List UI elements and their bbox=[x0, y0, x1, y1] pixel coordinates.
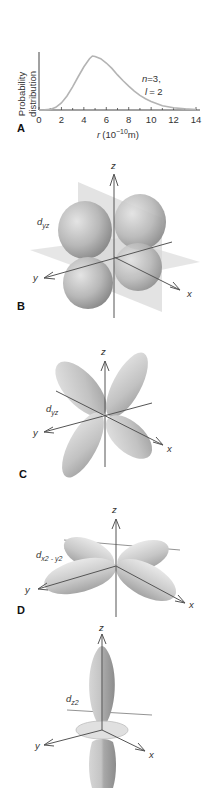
panel-label-c: C bbox=[19, 468, 27, 480]
svg-text:Probability: Probability bbox=[16, 72, 27, 117]
panel-label-b: B bbox=[17, 300, 25, 312]
panel-b-dyz-with-planes: z y x dyz B bbox=[0, 150, 212, 320]
y-axis-label: y bbox=[32, 427, 39, 438]
x-tick-label: 10 bbox=[146, 114, 157, 125]
lobe-lower-left bbox=[63, 257, 113, 309]
x-axis-label: r(10−10m) bbox=[97, 128, 139, 140]
svg-text:n=3,: n=3, bbox=[142, 73, 161, 84]
probability-curve bbox=[39, 56, 196, 110]
x-axis-label: x bbox=[166, 443, 173, 454]
z-axis-label: z bbox=[110, 160, 116, 171]
orbital-label-dx2y2: dx2 - y2 bbox=[36, 549, 62, 563]
svg-text:distribution: distribution bbox=[27, 71, 38, 117]
lobe-lower-z bbox=[89, 739, 116, 788]
lobe-lower-right bbox=[98, 407, 160, 467]
panel-c-dyz-lobes: z y x dyz C bbox=[0, 335, 212, 490]
lobe-lower-left bbox=[54, 407, 113, 484]
panel-d-dx2y2-lobes: z y x dx2 - y2 D bbox=[0, 495, 212, 620]
panel-label-d: D bbox=[17, 604, 25, 616]
x-axis-label: x bbox=[186, 288, 193, 299]
z-axis-label: z bbox=[111, 504, 117, 515]
dz2-diagram: z y x dz2 bbox=[0, 620, 212, 788]
x-tick-label: 2 bbox=[59, 114, 64, 125]
panel-e-dz2: z y x dz2 bbox=[0, 620, 212, 788]
x-tick-label: 4 bbox=[81, 114, 86, 125]
svg-text:l= 2: l= 2 bbox=[145, 86, 163, 97]
orbital-label-dyz: dyz bbox=[37, 216, 50, 230]
z-axis-label: z bbox=[98, 622, 104, 633]
x-tick-label: 6 bbox=[104, 114, 109, 125]
dx2y2-lobes-diagram: z y x dx2 - y2 bbox=[0, 495, 212, 620]
x-tick-label: 12 bbox=[168, 114, 179, 125]
x-tick-label: 0 bbox=[36, 114, 41, 125]
dyz-planes-diagram: z y x dyz bbox=[0, 150, 212, 320]
dyz-lobes-diagram: z y x dyz bbox=[0, 335, 212, 490]
y-axis-label: y bbox=[32, 272, 39, 283]
y-axis-label: Probability distribution bbox=[16, 71, 38, 117]
y-axis-label: y bbox=[24, 584, 31, 595]
orbital-label-dyz: dyz bbox=[46, 403, 59, 417]
y-axis-label: y bbox=[34, 740, 41, 751]
lobe-lower-right bbox=[114, 243, 162, 291]
quantum-numbers-annotation: n=3, l= 2 bbox=[142, 73, 163, 97]
z-axis-label: z bbox=[100, 346, 106, 357]
radial-distribution-chart: Probability distribution 02468101214 n=3… bbox=[0, 40, 212, 140]
orbital-label-dz2: dz2 bbox=[66, 693, 79, 706]
lobe-upper-left bbox=[58, 201, 112, 259]
panel-label-a: A bbox=[17, 122, 25, 134]
x-tick-label: 8 bbox=[126, 114, 131, 125]
x-axis-label: x bbox=[188, 599, 195, 610]
panel-a-radial-distribution: Probability distribution 02468101214 n=3… bbox=[0, 40, 212, 140]
x-axis-label: x bbox=[148, 749, 155, 760]
lobe-upper-right bbox=[114, 194, 166, 250]
x-tick-label: 14 bbox=[191, 114, 202, 125]
lobe-upper-right bbox=[98, 347, 157, 424]
